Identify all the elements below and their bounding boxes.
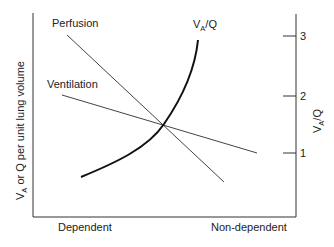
y-axis-right-label: VA/Q (311, 109, 326, 133)
vaq-label: VA/Q (193, 18, 217, 33)
vaq-label-rest: /Q (205, 18, 217, 30)
y-left-rest: or Q per unit lung volume (14, 61, 26, 188)
right-tick-label-2: 2 (300, 90, 306, 102)
perfusion-label: Perfusion (52, 17, 98, 29)
y-right-rest: /Q (311, 109, 323, 121)
right-tick-label-3: 3 (300, 30, 306, 42)
vaq-curve (81, 40, 198, 177)
ventilation-line (62, 95, 257, 153)
chart-svg: 3 2 1 Perfusion Ventilation VA/Q Depende… (0, 0, 334, 247)
right-tick-label-1: 1 (300, 147, 306, 159)
ventilation-label: Ventilation (47, 78, 98, 90)
perfusion-line (67, 35, 224, 182)
x-label-non-dependent: Non-dependent (211, 221, 287, 233)
y-axis-left-label: VA or Q per unit lung volume (14, 61, 29, 200)
x-label-dependent: Dependent (58, 221, 112, 233)
